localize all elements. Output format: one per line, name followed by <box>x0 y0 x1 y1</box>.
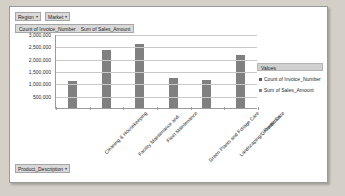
gridline <box>56 60 257 61</box>
x-axis-category-label: Green Plants and Foliage Care <box>207 110 260 163</box>
x-axis-category-label: Predictive… <box>262 110 285 133</box>
y-axis: 3,000,0002,500,0002,000,0001,500,0001,00… <box>15 35 53 109</box>
y-axis-tick-label: 2,000,000 <box>29 57 51 63</box>
chevron-down-icon[interactable]: ▾ <box>65 15 67 19</box>
bar[interactable] <box>236 55 245 108</box>
legend-item-label: Sum of Sales_Amount <box>264 87 314 93</box>
x-axis-category-labels: Cleaning & HousekeepingFacility Maintena… <box>55 110 257 172</box>
y-axis-tick-label: 1,500,000 <box>29 69 51 75</box>
field-button-product-description[interactable]: Product_Description ▾ <box>15 164 70 173</box>
chevron-down-icon[interactable]: ▾ <box>36 15 38 19</box>
plot-area-wrapper: 3,000,0002,500,0002,000,0001,500,0001,00… <box>15 35 323 181</box>
gridline <box>56 84 257 85</box>
legend-item-label: Count of Invoice_Number <box>264 76 321 82</box>
field-button-product-label: Product_Description <box>18 165 63 173</box>
y-axis-tick-label: 1,000,000 <box>29 81 51 87</box>
field-button-market[interactable]: Market ▾ <box>45 12 70 21</box>
y-axis-tick-label: 2,500,000 <box>29 44 51 50</box>
bar[interactable] <box>135 44 144 108</box>
legend-title: Values <box>257 63 323 71</box>
field-button-market-label: Market <box>48 13 63 21</box>
legend-swatch-icon <box>259 89 262 92</box>
gridline <box>56 35 257 36</box>
chart-object-frame[interactable]: Region ▾ Market ▾ Count of Invoice_Numbe… <box>9 6 328 183</box>
pivotchart-screenshot: Region ▾ Market ▾ Count of Invoice_Numbe… <box>0 0 345 196</box>
legend-items: Count of Invoice_NumberSum of Sales_Amou… <box>257 76 323 93</box>
gridline <box>56 47 257 48</box>
gridline <box>56 97 257 98</box>
legend-item[interactable]: Sum of Sales_Amount <box>257 87 323 93</box>
field-button-region-label: Region <box>18 13 34 21</box>
legend[interactable]: Values Count of Invoice_NumberSum of Sal… <box>257 63 323 93</box>
values-field-2: Sum of Sales_Amount <box>81 26 131 32</box>
legend-item[interactable]: Count of Invoice_Number <box>257 76 323 82</box>
y-axis-tick-label: 3,000,000 <box>29 32 51 38</box>
legend-swatch-icon <box>259 78 262 81</box>
x-axis-tick <box>258 107 259 110</box>
chevron-down-icon[interactable]: ▾ <box>65 167 67 171</box>
bar[interactable] <box>169 78 178 108</box>
field-button-region[interactable]: Region ▾ <box>15 12 41 21</box>
y-axis-tick-label: 500,000 <box>33 94 51 100</box>
gridline <box>56 72 257 73</box>
plot-area[interactable] <box>55 35 257 109</box>
values-field-1: Count of Invoice_Number <box>19 26 76 32</box>
